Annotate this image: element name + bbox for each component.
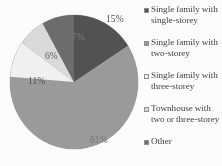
legend-item-label: Single family with three-storey [151,70,222,93]
slice-label-two-storey: 61% [90,135,108,145]
legend-swatch-icon [144,140,149,145]
legend-swatch-icon [144,74,149,79]
legend-swatch-icon [144,8,149,13]
chart-legend: Single family with single-storey Single … [143,2,222,164]
pie-chart: 15% 61% 11% 6% 7% Single family with sin… [0,0,222,166]
slice-label-other: 7% [72,32,85,42]
slice-label-townhouse: 6% [45,51,58,61]
slice-label-three-storey: 11% [28,76,45,86]
legend-swatch-icon [144,107,149,112]
legend-swatch-icon [144,41,149,46]
pie-plot-area: 15% 61% 11% 6% 7% [6,8,140,160]
legend-item-label: Townhouse with two or three-storey [151,103,222,126]
legend-item-label: Single family with single-storey [151,4,222,27]
slice-label-single-storey: 15% [106,14,124,24]
legend-item-label: Other [151,136,222,147]
legend-item-label: Single family with two-storey [151,37,222,60]
